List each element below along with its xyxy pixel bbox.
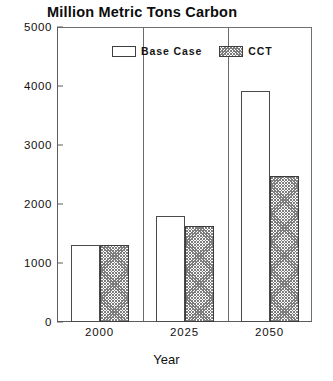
legend-swatch-cct-icon [219,46,243,57]
y-tick-mark [57,145,63,146]
y-tick-mark [57,86,63,87]
legend-item-base-case: Base Case [112,45,202,57]
legend-swatch-base-case-icon [112,46,136,57]
bars-layer [57,27,312,322]
chart-title: Million Metric Tons Carbon [47,4,237,20]
x-tick-label: 2025 [170,326,199,338]
y-tick-label: 4000 [24,80,52,92]
bar-2025-base-case [156,216,185,322]
bar-2000-cct [100,245,129,322]
bar-2050-cct [270,176,299,322]
y-tick-label: 0 [45,316,52,328]
chart-legend: Base Case CCT [112,45,273,57]
bar-2000-base-case [71,245,100,322]
bar-chart: Million Metric Tons Carbon 0100020003000… [0,0,333,381]
y-tick-mark [57,204,63,205]
y-axis: 010002000300040005000 [0,27,52,322]
x-tick-label: 2050 [255,326,284,338]
bar-2050-base-case [241,91,270,322]
y-tick-mark [57,322,63,323]
y-tick-mark [57,263,63,264]
y-tick-mark [57,27,63,28]
y-tick-label: 1000 [24,257,52,269]
x-tick-label: 2000 [85,326,114,338]
legend-label-base-case: Base Case [141,45,202,57]
bar-2025-cct [185,226,214,322]
y-tick-label: 3000 [24,139,52,151]
y-tick-label: 5000 [24,21,52,33]
legend-item-cct: CCT [219,45,272,57]
x-axis-title: Year [0,352,333,367]
x-axis: 200020252050 [57,326,312,346]
legend-label-cct: CCT [248,45,272,57]
y-tick-label: 2000 [24,198,52,210]
